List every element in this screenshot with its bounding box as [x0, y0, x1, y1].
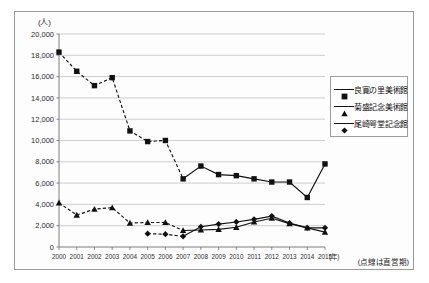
x-axis-tick-label: 2001 [70, 253, 85, 260]
data-point-marker [287, 179, 292, 184]
y-axis-tick-label: 16,000 [31, 72, 54, 81]
data-point-marker [233, 219, 239, 225]
legend-item-label: 良寛の里美術館 [354, 84, 408, 95]
y-axis-tick-label: 2,000 [35, 221, 54, 230]
data-point-marker [163, 138, 168, 143]
x-axis-unit-label: (年) [329, 252, 339, 261]
chart-note: (点線は直営期) [357, 256, 409, 267]
x-axis-tick-label: 2002 [87, 253, 102, 260]
data-point-marker [74, 69, 79, 74]
diamond-marker-icon [334, 118, 354, 129]
triangle-marker-icon [334, 101, 354, 112]
y-axis-tick-label: 14,000 [31, 94, 54, 103]
data-point-marker [198, 163, 203, 168]
x-axis-tick-label: 2009 [211, 253, 226, 260]
data-point-marker [127, 128, 132, 133]
chart-screenshot: (人) 02,0004,0006,0008,00010,00012,00014,… [0, 0, 429, 283]
y-axis-tick-label: 6,000 [35, 179, 54, 188]
data-point-marker [234, 173, 239, 178]
x-axis-tick-label: 2003 [105, 253, 120, 260]
data-point-marker [162, 231, 168, 237]
data-point-marker [216, 221, 222, 227]
x-axis-tick-label: 2010 [229, 253, 244, 260]
data-point-marker [322, 161, 327, 166]
y-axis-tick-label: 10,000 [31, 136, 54, 145]
data-point-marker [144, 219, 150, 225]
data-point-marker [216, 172, 221, 177]
x-axis-tick-label: 2008 [194, 253, 209, 260]
x-axis-tick-label: 2005 [141, 253, 156, 260]
data-point-marker [269, 179, 274, 184]
line-chart: 02,0004,0006,0008,00010,00012,00014,0001… [0, 0, 429, 283]
y-axis-tick-label: 12,000 [31, 115, 54, 124]
x-axis-tick-label: 2006 [158, 253, 173, 260]
legend-item-label: 菊盛記念美術館 [354, 101, 408, 112]
data-point-marker [145, 231, 151, 237]
x-axis-tick-label: 2012 [265, 253, 280, 260]
data-point-marker [91, 206, 97, 212]
legend-item-ozaki: 尾崎咢堂記念館 [333, 115, 405, 132]
square-marker-icon [334, 84, 354, 95]
x-axis-tick-label: 2004 [123, 253, 138, 260]
data-point-marker [110, 75, 115, 80]
data-point-marker [56, 200, 62, 206]
y-axis-tick-label: 8,000 [35, 157, 54, 166]
y-axis-tick-label: 0 [50, 243, 54, 252]
data-point-marker [180, 176, 185, 181]
data-point-marker [56, 49, 61, 54]
data-point-marker [305, 195, 310, 200]
legend-item-ryokan: 良寛の里美術館 [333, 81, 405, 98]
x-axis-tick-label: 2011 [247, 253, 261, 260]
x-axis-tick-label: 2013 [282, 253, 297, 260]
y-axis-tick-label: 18,000 [31, 51, 54, 60]
x-axis-tick-label: 2014 [300, 253, 315, 260]
data-point-marker [180, 233, 186, 239]
data-point-marker [251, 176, 256, 181]
legend-item-kikumori: 菊盛記念美術館 [333, 98, 405, 115]
y-axis-tick-label: 20,000 [31, 30, 54, 39]
legend-item-label: 尾崎咢堂記念館 [354, 118, 408, 129]
data-point-marker [145, 139, 150, 144]
x-axis-tick-label: 2007 [176, 253, 191, 260]
plot-area: 02,0004,0006,0008,00010,00012,00014,0001… [0, 0, 429, 283]
y-axis-tick-label: 4,000 [35, 200, 54, 209]
x-axis-tick-label: 2000 [52, 253, 67, 260]
data-point-marker [198, 224, 204, 230]
data-point-marker [92, 83, 97, 88]
chart-legend: 良寛の里美術館 菊盛記念美術館 尾崎咢堂記念館 [330, 76, 408, 137]
